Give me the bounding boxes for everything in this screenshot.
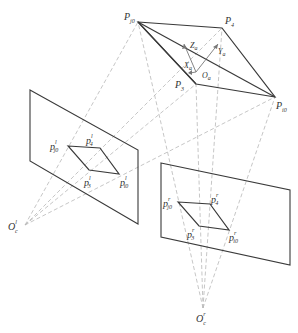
label-Za: Za bbox=[190, 41, 197, 51]
label-P4: P4 bbox=[224, 15, 234, 28]
left-image-quadrilateral bbox=[68, 146, 119, 174]
label-right-pi0: pri0 bbox=[228, 230, 238, 244]
label-left-p3: pl3 bbox=[83, 175, 91, 189]
label-left-p4: pl4 bbox=[85, 133, 93, 147]
label-Ya: Ya bbox=[218, 47, 225, 57]
label-left-pi0: pli0 bbox=[119, 175, 128, 189]
left-projection-rays bbox=[25, 22, 275, 225]
label-right-p3: pr3 bbox=[186, 227, 195, 241]
label-Oa: Oa bbox=[202, 71, 211, 81]
label-left-camera-center: Olc bbox=[8, 219, 18, 234]
right-image-quadrilateral bbox=[178, 202, 229, 230]
label-right-p4: pr4 bbox=[210, 192, 219, 206]
diagram-canvas: Pj0 P4 Pi0 P3 Za Ya Xa Oa plj0 pl4 pli0 … bbox=[0, 0, 298, 333]
object-quadrilateral bbox=[138, 22, 275, 97]
label-Xa: Xa bbox=[183, 61, 192, 71]
right-projection-rays bbox=[138, 22, 275, 308]
label-left-pj0: plj0 bbox=[49, 139, 58, 153]
y-axis bbox=[196, 44, 218, 72]
label-right-camera-center: Orc bbox=[196, 311, 206, 326]
label-Pi0: Pi0 bbox=[275, 100, 287, 113]
right-image-plane bbox=[161, 163, 290, 265]
label-Pj0: Pj0 bbox=[123, 11, 135, 24]
label-P3: P3 bbox=[174, 79, 184, 92]
label-right-pj0: prj0 bbox=[162, 196, 172, 210]
